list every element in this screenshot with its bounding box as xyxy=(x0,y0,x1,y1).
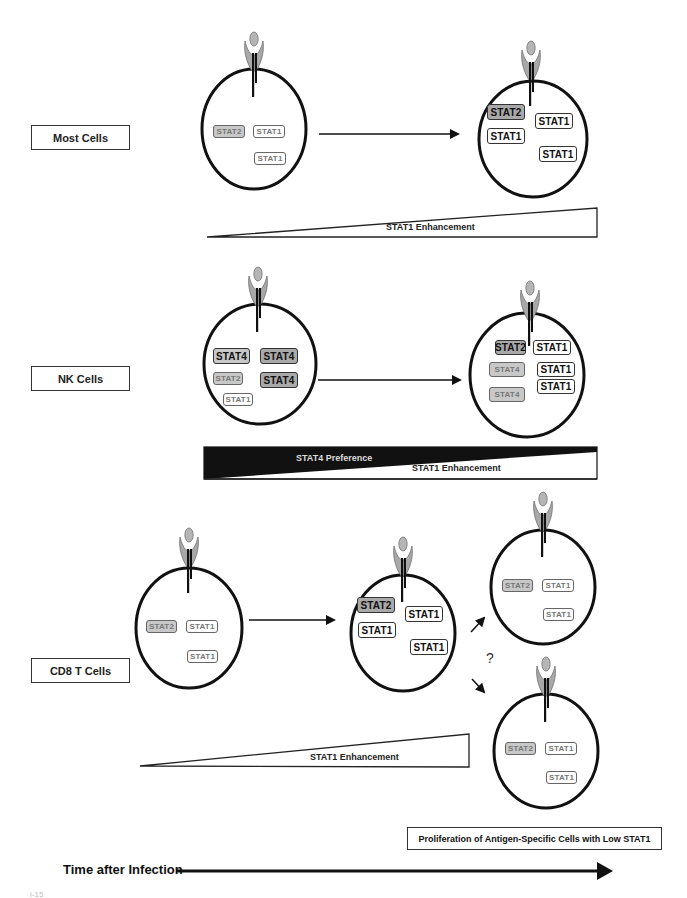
nk-late-cell xyxy=(470,281,584,437)
stat1-protein: STAT1 xyxy=(537,362,575,377)
cd8-outcome-lower-cell xyxy=(494,657,598,808)
stat4-protein: STAT4 xyxy=(260,372,298,388)
nk-early-cell xyxy=(204,267,316,424)
time-axis-arrowhead xyxy=(597,862,613,880)
stat4-protein: STAT4 xyxy=(260,348,298,364)
stat2-protein: STAT2 xyxy=(213,372,243,385)
stat1-protein: STAT1 xyxy=(405,606,443,622)
row-label-nk-cells: NK Cells xyxy=(31,366,130,391)
wedge-label-stat1-enhancement: STAT1 Enhancement xyxy=(386,222,475,232)
cd8-outcome-upper-cell xyxy=(491,492,595,644)
stat1-protein: STAT1 xyxy=(543,608,574,621)
stat1-protein: STAT1 xyxy=(537,379,575,394)
branch-arrow-up xyxy=(471,618,484,632)
stat1-protein: STAT1 xyxy=(533,340,571,355)
stat2-protein: STAT2 xyxy=(505,742,536,755)
row-label-cd8-t-cells: CD8 T Cells xyxy=(31,658,130,683)
uncertain-branch-marker: ? xyxy=(486,650,494,666)
stat1-protein: STAT1 xyxy=(545,742,577,755)
stat1-protein: STAT1 xyxy=(546,771,577,784)
stat2-protein: STAT2 xyxy=(502,579,533,592)
wedge-label-stat1-enhancement: STAT1 Enhancement xyxy=(412,463,501,473)
time-axis-label: Time after Infection xyxy=(63,862,183,877)
stat1-protein: STAT1 xyxy=(535,113,573,129)
stat1-protein: STAT1 xyxy=(542,579,574,592)
stat2-protein: STAT2 xyxy=(146,620,177,633)
stat1-protein: STAT1 xyxy=(487,128,525,144)
stat2-protein: STAT2 xyxy=(213,125,245,138)
stat1-protein: STAT1 xyxy=(186,620,218,633)
proliferation-note: Proliferation of Antigen-Specific Cells … xyxy=(407,827,662,850)
stat2-protein: STAT2 xyxy=(487,104,525,120)
stat1-protein: STAT1 xyxy=(187,650,218,663)
branch-arrow-down xyxy=(472,679,484,692)
most-cells-early-cell xyxy=(202,32,306,189)
wedge-label-stat1-enhancement: STAT1 Enhancement xyxy=(310,752,399,762)
cd8-early-cell xyxy=(136,528,242,688)
row-label-most-cells: Most Cells xyxy=(31,125,130,150)
stat2-protein: STAT2 xyxy=(357,597,395,613)
stat4-protein: STAT4 xyxy=(489,362,525,377)
stat2-protein: STAT2 xyxy=(495,340,526,355)
stat1-protein: STAT1 xyxy=(253,125,285,138)
stat1-protein: STAT1 xyxy=(539,146,577,162)
stat1-protein: STAT1 xyxy=(254,152,286,165)
stat1-protein: STAT1 xyxy=(358,622,396,638)
figure-canvas: Most Cells NK Cells CD8 T Cells STAT2 ST… xyxy=(0,0,687,898)
cd8-stat1-enhancement-wedge xyxy=(140,734,469,767)
corner-fragment-text: i-15 xyxy=(30,890,43,898)
stat4-protein: STAT4 xyxy=(489,387,525,402)
stat1-protein: STAT1 xyxy=(410,639,448,655)
stat4-protein: STAT4 xyxy=(213,348,250,364)
wedge-label-stat4-preference: STAT4 Preference xyxy=(296,453,372,463)
stat1-protein: STAT1 xyxy=(223,393,253,406)
